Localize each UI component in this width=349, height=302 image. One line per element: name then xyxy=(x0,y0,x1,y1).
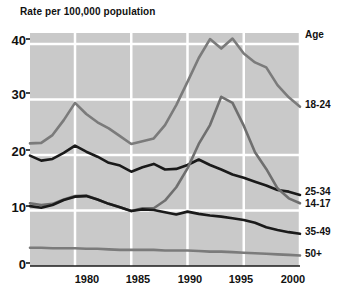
y-axis-tick-label: 0 xyxy=(0,257,26,272)
series-label-14-17: 14-17 xyxy=(305,198,331,209)
series-label-35-49: 35-49 xyxy=(305,226,331,237)
chart-container: Rate per 100,000 population Age 40302010… xyxy=(0,0,349,302)
y-axis-tick-label: 10 xyxy=(0,200,26,215)
series-label-18-24: 18-24 xyxy=(305,99,331,110)
x-axis-tick-label: 1990 xyxy=(170,273,210,285)
plot-area xyxy=(0,0,349,302)
series-label-50+: 50+ xyxy=(305,248,322,259)
x-axis-tick-label: 2000 xyxy=(273,273,313,285)
y-axis-tick-label: 30 xyxy=(0,87,26,102)
series-label-25-34: 25-34 xyxy=(305,186,331,197)
x-axis-tick-label: 1995 xyxy=(221,273,261,285)
x-axis-tick-label: 1985 xyxy=(118,273,158,285)
legend-title: Age xyxy=(305,29,324,40)
y-axis-tick-label: 40 xyxy=(0,33,26,48)
y-axis-tick-label: 20 xyxy=(0,144,26,159)
x-axis-tick-label: 1980 xyxy=(67,273,107,285)
